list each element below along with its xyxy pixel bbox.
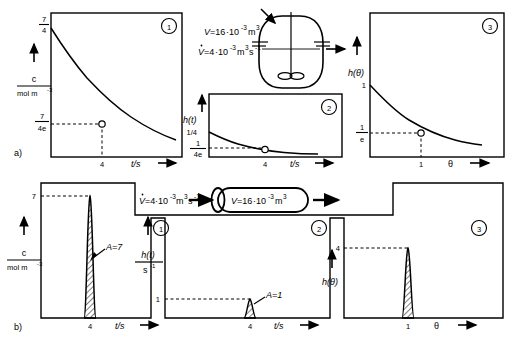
panel-a3-marker: [418, 130, 424, 136]
panel-a1: 1 c mol m -3 7 4 7: [17, 13, 182, 169]
panel-a1-curve: [51, 28, 176, 140]
reactor-b-flow-dot10: ·10: [155, 196, 168, 206]
reactor-b-volume-exp: -3: [268, 193, 274, 200]
panel-a3-ytick-mid-num: 1: [360, 123, 364, 132]
panel-b3-ytick: 4: [336, 244, 340, 253]
reactor-a-flow-dot-icon: [201, 45, 203, 47]
panel-b2-area-label: A=1: [265, 290, 282, 300]
row-a: a) 1 c mol m -3 7: [14, 9, 504, 169]
panel-b2-impulse: [244, 299, 256, 318]
panel-b1-ylabel-den-exp: -3: [37, 261, 43, 267]
panel-b2-ytick: 1: [156, 295, 160, 304]
panel-b2-number: 2: [317, 225, 321, 234]
reactor-a-flow-label: V =4 ·10 -3 m 3 s -1: [198, 44, 261, 57]
reactor-b-flow-label: V =4 ·10 -3 m 3 s -1: [139, 193, 200, 206]
figure-svg: a) 1 c mol m -3 7: [0, 0, 511, 345]
panel-b2-ylabel-num: h(t): [141, 250, 155, 260]
reactor-b-flow-eq: =4: [145, 196, 155, 206]
reactor-a-volume-eq: =16: [210, 27, 225, 37]
panel-a3-ytick-mid: 1 e: [356, 123, 368, 144]
reactor-a-volume-label: V =16 ·10 -3 m 3: [204, 24, 260, 37]
panel-a1-xlabel: t/s: [131, 159, 141, 169]
panel-a2-ytick-mid-num: 1: [196, 139, 200, 148]
reactor-a-volume-exp: -3: [241, 24, 247, 31]
panel-a3-xlabel: θ: [448, 159, 453, 169]
reactor-a-volume-unit: m: [248, 27, 256, 37]
reactor-a-flow-unit2: s: [249, 47, 254, 57]
reactor-b-flow-unit2: s: [188, 196, 193, 206]
reactor-a-flow-eq: =4: [204, 47, 214, 57]
reactor-a-flow-exp: -3: [230, 44, 236, 51]
reactor-a-volume-dot10: ·10: [226, 27, 239, 37]
panel-b3: 3 4 h(θ) 1 θ: [322, 221, 487, 332]
reactor-b-volume-dot10: ·10: [253, 196, 266, 206]
reactor-b-flow-unit: m: [176, 196, 184, 206]
panel-b2-xtick: 4: [248, 322, 252, 331]
panel-a1-ytick-mid: 7 4e: [35, 112, 49, 133]
panel-a1-frame: [51, 13, 182, 157]
panel-a2-ylabel: h(t): [183, 115, 197, 125]
panel-a3-ytick-mid-den: e: [360, 135, 364, 144]
panel-a2-ytick-top: 1/4: [187, 128, 197, 137]
panel-a3: 3 h(θ) 1 1 e 1 θ: [348, 13, 504, 169]
panel-a2-xlabel: t/s: [290, 159, 300, 169]
panel-b3-impulse: [402, 248, 414, 318]
panel-a1-ytick-top: 7 4: [39, 15, 49, 35]
reactor-a-volume-unit-exp: 3: [256, 24, 260, 31]
reactor-b-flow-unit2-exp: -1: [194, 193, 200, 200]
reactor-b-volume-unit: m: [275, 196, 283, 206]
panel-b1-ylabel-den: mol m: [7, 263, 27, 272]
reactor-b-volume-unit-exp: 3: [283, 193, 287, 200]
reactor-b-volume-label: V =16 ·10 -3 m 3: [231, 193, 287, 206]
panel-a1-marker: [99, 121, 105, 127]
panel-a1-number: 1: [167, 23, 171, 32]
row-b: b) V =4 ·10 -3 m 3 s -1 V: [7, 183, 503, 332]
panel-a3-frame: [370, 13, 504, 157]
stirred-tank-reactor-diagram: V =16 ·10 -3 m 3 V =4 ·10 -3 m 3 s -1: [198, 9, 345, 88]
panel-a3-number: 3: [488, 23, 492, 32]
panel-a1-ytick-mid-den: 4e: [38, 124, 46, 133]
reactor-b-volume-eq: =16: [237, 196, 252, 206]
panel-a3-ylabel: h(θ): [348, 68, 364, 78]
panel-b3-xtick: 1: [406, 322, 410, 331]
panel-b3-xlabel: θ: [434, 321, 439, 331]
panel-b3-ylabel: h(θ): [322, 277, 338, 287]
panel-b2-ylabel-den-exp: -1: [150, 263, 156, 269]
panel-b1-xtick: 4: [88, 322, 92, 331]
panel-a3-ytick-top: 1: [362, 81, 366, 90]
tubular-reactor-diagram: V =4 ·10 -3 m 3 s -1 V =16 ·10 -3 m 3: [139, 188, 338, 212]
panel-a3-xtick: 1: [419, 160, 423, 169]
reactor-a-flow-dot10: ·10: [215, 47, 228, 57]
panel-a1-ylabel: c mol m -3: [17, 74, 53, 98]
panel-a2: 2 h(t) 1/4 1 4e 4 t/s: [183, 94, 342, 169]
panel-b1-area-label: A=7: [105, 242, 123, 252]
panel-a1-ylabel-den: mol m: [17, 89, 37, 98]
panel-b1-ylabel: c mol m -3: [7, 248, 43, 272]
panel-b2-ylabel-den: s: [143, 265, 148, 275]
panel-a1-ylabel-den-exp: -3: [47, 87, 53, 93]
reactor-b-flow-dot-icon: [142, 194, 144, 196]
panel-a2-ytick-mid-den: 4e: [194, 150, 202, 159]
panel-a3-curve: [370, 85, 482, 145]
panel-b2: 2 1 A=1 h(t) s -1 4 t/s: [135, 217, 327, 331]
panel-a1-xtick: 4: [100, 160, 104, 169]
panel-b3-number: 3: [477, 225, 481, 234]
panel-b2-area-leader: [254, 297, 265, 304]
panel-a2-marker: [262, 146, 268, 152]
reactor-a-flow-unit: m: [237, 47, 245, 57]
panel-a2-ytick-mid: 1 4e: [190, 139, 206, 159]
panel-a2-number: 2: [327, 104, 331, 113]
panel-b1-ylabel-num: c: [22, 248, 27, 258]
reactor-a-flow-unit2-exp: -1: [255, 44, 261, 51]
panel-a1-ytick-top-den: 4: [42, 26, 46, 35]
panel-a1-ylabel-num: c: [32, 74, 37, 84]
panel-a2-xtick: 4: [263, 160, 267, 169]
panel-b2-ylabel: h(t) s -1: [135, 250, 163, 275]
panel-a1-ytick-top-num: 7: [42, 15, 46, 24]
panel-b2-xlabel: t/s: [274, 321, 284, 331]
panel-b1-number: 1: [159, 225, 163, 234]
panel-b1-ytick: 7: [32, 192, 36, 201]
panel-a1-ytick-mid-num: 7: [40, 112, 44, 121]
row-b-label: b): [14, 322, 22, 332]
panel-b1-xlabel: t/s: [115, 321, 125, 331]
